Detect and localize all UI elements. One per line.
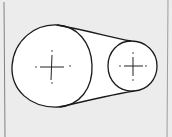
diagram-canvas	[0, 0, 172, 137]
small-pulley	[108, 41, 157, 91]
frame-right-edge	[167, 0, 168, 137]
belt-drive-diagram	[0, 0, 172, 137]
large-pulley	[12, 25, 92, 107]
frame-left-edge	[4, 2, 5, 137]
